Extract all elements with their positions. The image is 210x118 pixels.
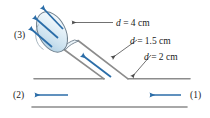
branch-wall-upper [64,50,104,79]
station-label-2-text: (2) [13,90,24,100]
diameter-label-nozzle: d = 4 cm [116,19,150,29]
leader-lines [72,23,151,78]
diameter-label-main: d = 2 cm [144,53,178,63]
nozzle-assembly [30,7,78,58]
diameter-value-main: = 2 cm [149,52,178,62]
diameter-value-branch: = 1.5 cm [135,36,171,46]
schematic-drawing [0,0,210,118]
station-label-3-text: (3) [14,30,25,40]
diameter-label-branch: d = 1.5 cm [130,37,171,47]
figure-container: (3) (2) (1) d = 4 cm d = 1.5 cm d = 2 cm [0,0,210,118]
station-label-1-text: (1) [190,90,201,100]
station-label-1: (1) [190,91,201,101]
branch-wall-lower [78,41,128,79]
station-label-3: (3) [14,31,25,41]
diameter-value-nozzle: = 4 cm [121,18,150,28]
branch-pipe-walls [64,41,128,79]
main-pipe-walls [32,79,190,107]
station-label-2: (2) [13,91,24,101]
